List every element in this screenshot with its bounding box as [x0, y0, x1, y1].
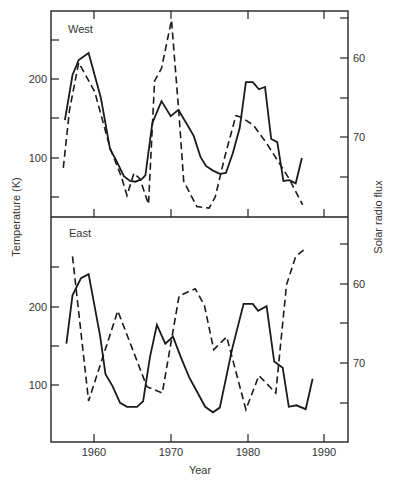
west-left-tick-100: 100 — [29, 152, 47, 164]
east-right-tick-70: 70 — [353, 357, 365, 369]
west-x-ticks — [94, 11, 324, 217]
west-right-axis-ticks — [340, 18, 348, 177]
east-x-ticks — [94, 434, 324, 442]
west-temperature-line — [65, 53, 302, 183]
panel-label-east: East — [69, 227, 91, 239]
east-right-tick-60: 60 — [353, 278, 365, 290]
y-axis-title-left: Temperature (K) — [10, 177, 22, 256]
panel-label-west: West — [68, 23, 93, 35]
x-tick-1970: 1970 — [159, 446, 183, 458]
west-left-axis-ticks — [51, 40, 59, 197]
west-right-tick-70: 70 — [353, 131, 365, 143]
x-tick-1980: 1980 — [236, 446, 260, 458]
x-axis-title: Year — [189, 464, 212, 476]
x-tick-1960: 1960 — [82, 446, 106, 458]
east-left-axis-ticks — [51, 267, 59, 385]
series-layer — [63, 20, 312, 412]
x-tick-1990: 1990 — [312, 446, 336, 458]
chart: 200 100 60 70 200 100 60 70 1960 1970 19… — [0, 0, 395, 487]
west-solar-flux-line — [63, 20, 302, 208]
east-right-axis-ticks — [340, 244, 348, 403]
west-left-tick-200: 200 — [29, 73, 47, 85]
east-left-tick-200: 200 — [29, 301, 47, 313]
west-right-tick-60: 60 — [353, 52, 365, 64]
y-axis-title-right: Solar radio flux — [372, 180, 384, 254]
east-left-tick-100: 100 — [29, 379, 47, 391]
